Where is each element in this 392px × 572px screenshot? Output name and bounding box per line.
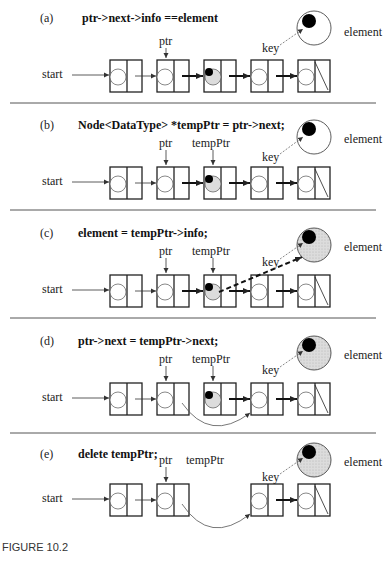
element-circle	[297, 11, 331, 45]
figure-caption: FIGURE 10.2	[2, 541, 68, 553]
key-label: key	[262, 363, 279, 377]
panel-e: (e) delete tempPtr; ptr tempPtr start ke…	[40, 443, 383, 528]
key-dot	[302, 122, 316, 136]
code-statement: ptr->next->info ==element	[82, 11, 218, 25]
key-label: key	[262, 255, 279, 269]
code-statement: delete tempPtr;	[78, 447, 158, 461]
key-dot	[302, 14, 316, 28]
code-statement: ptr->next = tempPtr->next;	[78, 334, 218, 348]
panel-label: (a)	[40, 11, 53, 25]
key-label: key	[262, 470, 279, 484]
start-label: start	[42, 491, 63, 505]
start-label: start	[42, 174, 63, 188]
panel-d: (d) ptr->next = tempPtr->next; ptr tempP…	[10, 334, 383, 433]
element-label: element	[344, 132, 383, 146]
element-label: element	[344, 348, 383, 362]
key-dot	[302, 445, 316, 459]
code-statement: Node<DataType> *tempPtr = ptr->next;	[78, 118, 285, 132]
panel-b: (b) Node<DataType> *tempPtr = ptr->next;…	[10, 118, 383, 210]
tempptr-label: tempPtr	[186, 453, 224, 467]
key-label: key	[262, 150, 279, 164]
key-dot	[302, 230, 316, 244]
bypass-link-arrow	[182, 504, 250, 528]
tempptr-label: tempPtr	[192, 244, 230, 258]
ptr-label: ptr	[159, 352, 172, 366]
panel-c: (c) element = tempPtr->info; ptr tempPtr…	[10, 226, 383, 318]
linked-list-delete-figure: (a) ptr->next->info ==element ptr start …	[0, 0, 392, 572]
element-label: element	[344, 240, 383, 254]
start-label: start	[42, 282, 63, 296]
element-label: element	[344, 455, 383, 469]
ptr-label: ptr	[159, 34, 172, 48]
ptr-label: ptr	[159, 453, 172, 467]
panel-label: (e)	[40, 447, 53, 461]
ptr-label: ptr	[159, 244, 172, 258]
tempptr-label: tempPtr	[192, 136, 230, 150]
ptr-label: ptr	[159, 136, 172, 150]
start-label: start	[42, 67, 63, 81]
key-dot	[302, 338, 316, 352]
element-label: element	[344, 25, 383, 39]
panel-label: (b)	[40, 118, 54, 132]
key-label: key	[262, 41, 279, 55]
panel-label: (c)	[40, 226, 53, 240]
start-label: start	[42, 390, 63, 404]
code-statement: element = tempPtr->info;	[78, 226, 208, 240]
tempptr-label: tempPtr	[192, 352, 230, 366]
panel-label: (d)	[40, 334, 54, 348]
panel-a: (a) ptr->next->info ==element ptr start …	[10, 11, 383, 103]
